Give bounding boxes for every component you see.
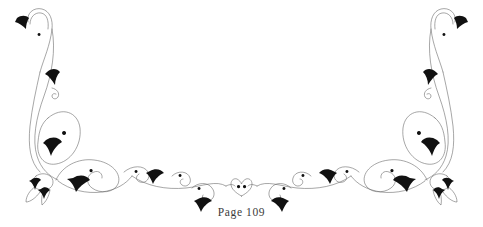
right-petal-loop bbox=[403, 112, 446, 165]
left-ribbon-tail-a bbox=[26, 186, 40, 202]
center-left-connector bbox=[226, 185, 235, 187]
left-sweep-tip-dot bbox=[198, 187, 201, 190]
right-ribbon-leaf-upper bbox=[442, 178, 454, 190]
right-sweep-curl-b bbox=[293, 172, 311, 186]
left-sweep-curl-dot-a bbox=[135, 170, 138, 173]
right-small-curl bbox=[424, 88, 431, 99]
page-ornament-flourish bbox=[0, 0, 483, 227]
right-tall-stem-companion bbox=[443, 72, 454, 172]
right-sweep-curl-dot-b bbox=[301, 174, 304, 177]
left-petal-loop bbox=[38, 112, 81, 165]
right-top-hook-dot bbox=[442, 33, 445, 36]
right-top-leaf-arrowhead bbox=[454, 16, 468, 29]
right-lower-scroll bbox=[364, 160, 427, 192]
right-sweep-curl-dot-a bbox=[345, 170, 348, 173]
left-lower-scroll-dot bbox=[89, 169, 92, 172]
right-top-hook-inner bbox=[435, 13, 453, 29]
right-sweep-tip-dot bbox=[282, 187, 285, 190]
left-horizontal-sweep bbox=[132, 176, 226, 189]
left-small-curl bbox=[52, 88, 59, 99]
center-heart-outline bbox=[231, 179, 252, 196]
center-heart-dot-right bbox=[243, 185, 246, 188]
left-lower-scroll-leaf bbox=[67, 176, 90, 192]
right-lower-scroll-dot bbox=[390, 169, 393, 172]
left-lower-scroll bbox=[56, 160, 119, 192]
left-sweep-curl-a bbox=[124, 167, 149, 183]
center-heart-motif-group bbox=[226, 179, 257, 196]
left-sweep-curl-dot-b bbox=[179, 174, 182, 177]
left-upper-leaf-arrowhead bbox=[45, 69, 60, 85]
right-petal-loop-dot bbox=[417, 131, 421, 135]
right-ribbon-tail-a bbox=[443, 186, 457, 202]
page-number-label: Page 109 bbox=[0, 206, 483, 218]
right-upper-leaf-arrowhead bbox=[423, 69, 438, 85]
left-top-leaf-arrowhead bbox=[15, 16, 29, 29]
right-horizontal-sweep bbox=[257, 176, 351, 189]
left-petal-leaf-arrowhead bbox=[43, 138, 62, 156]
left-top-hook-inner bbox=[30, 13, 48, 29]
left-flourish-group bbox=[15, 9, 226, 212]
left-sweep-curl-b bbox=[172, 172, 190, 186]
right-lower-scroll-leaf bbox=[393, 176, 416, 192]
right-sweep-curl-a bbox=[334, 167, 359, 183]
left-tall-stem-companion bbox=[29, 72, 40, 172]
center-right-connector bbox=[248, 185, 257, 187]
center-heart-dot-left bbox=[237, 185, 240, 188]
ornament-page: Page 109 bbox=[0, 0, 483, 227]
left-top-hook-dot bbox=[38, 33, 41, 36]
right-petal-leaf-arrowhead bbox=[421, 138, 440, 156]
left-ribbon-leaf-upper bbox=[29, 178, 41, 190]
right-flourish-group bbox=[257, 9, 468, 212]
left-petal-loop-dot bbox=[62, 131, 66, 135]
